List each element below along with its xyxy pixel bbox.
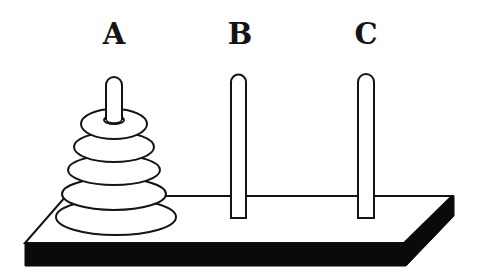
peg-a xyxy=(106,77,122,123)
tower-of-hanoi-diagram: A B C xyxy=(0,0,478,278)
base-front-face xyxy=(25,243,404,266)
peg-label-c: C xyxy=(354,20,377,49)
peg-c xyxy=(358,74,374,218)
peg-label-b: B xyxy=(228,20,253,49)
peg-label-a: A xyxy=(103,20,126,49)
peg-b xyxy=(231,75,246,219)
disk-stack-a xyxy=(56,109,176,235)
